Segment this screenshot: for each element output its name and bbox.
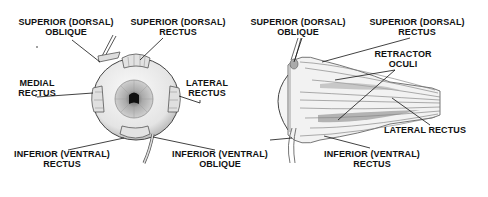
label-line: MEDIAL — [14, 78, 60, 88]
label-line: RECTUS — [367, 27, 467, 37]
label-medial-rectus: MEDIAL RECTUS — [14, 78, 60, 98]
label-line: SUPERIOR (DORSAL) — [128, 17, 228, 27]
label-line: SUPERIOR (DORSAL) — [248, 17, 348, 27]
label-inferior-rectus-left: INFERIOR (VENTRAL) RECTUS — [12, 149, 112, 169]
label-line: LATERAL — [184, 78, 230, 88]
label-inferior-oblique-left: INFERIOR (VENTRAL) OBLIQUE — [170, 149, 270, 169]
label-inferior-rectus-right: INFERIOR (VENTRAL) RECTUS — [322, 149, 422, 169]
label-line: INFERIOR (VENTRAL) — [322, 149, 422, 159]
label-lateral-rectus-right: LATERAL RECTUS — [382, 125, 468, 135]
label-line: OBLIQUE — [170, 159, 270, 169]
label-superior-rectus-right: SUPERIOR (DORSAL) RECTUS — [367, 17, 467, 37]
label-superior-oblique-right: SUPERIOR (DORSAL) OBLIQUE — [248, 17, 348, 37]
label-line: OBLIQUE — [248, 27, 348, 37]
label-line: RECTUS — [12, 159, 112, 169]
label-line: OBLIQUE — [16, 27, 116, 37]
label-line: RECTUS — [128, 27, 228, 37]
label-line: SUPERIOR (DORSAL) — [367, 17, 467, 27]
label-line: OCULI — [373, 59, 433, 69]
label-retractor-oculi: RETRACTOR OCULI — [373, 49, 433, 69]
eye-muscles-diagram: SUPERIOR (DORSAL) OBLIQUE SUPERIOR (DORS… — [0, 0, 488, 197]
label-line: RECTUS — [322, 159, 422, 169]
label-line: INFERIOR (VENTRAL) — [170, 149, 270, 159]
label-line: RECTUS — [14, 88, 60, 98]
label-superior-oblique-left: SUPERIOR (DORSAL) OBLIQUE — [16, 17, 116, 37]
label-superior-rectus-left: SUPERIOR (DORSAL) RECTUS — [128, 17, 228, 37]
label-line: RECTUS — [184, 88, 230, 98]
label-line: LATERAL RECTUS — [382, 125, 468, 135]
label-line: RETRACTOR — [373, 49, 433, 59]
label-line: INFERIOR (VENTRAL) — [12, 149, 112, 159]
label-lateral-rectus-left: LATERAL RECTUS — [184, 78, 230, 98]
anterior-eye-drawing — [92, 35, 181, 163]
label-line: SUPERIOR (DORSAL) — [16, 17, 116, 27]
